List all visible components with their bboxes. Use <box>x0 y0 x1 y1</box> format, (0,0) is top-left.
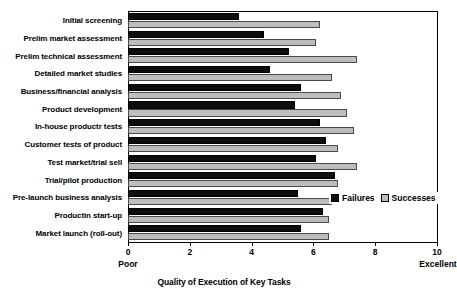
x-tick <box>252 243 253 246</box>
bar-group <box>128 207 437 225</box>
category-label: Prelim technical assessment <box>0 47 125 65</box>
bar-successes <box>128 92 341 99</box>
bar-successes <box>128 163 357 170</box>
x-tick-label: 0 <box>126 247 131 257</box>
bar-successes <box>128 56 357 63</box>
bar-successes <box>128 233 329 240</box>
x-tick <box>437 243 438 246</box>
category-label: In-house productr tests <box>0 118 125 136</box>
bar-group <box>128 136 437 154</box>
bar-successes <box>128 180 338 187</box>
x-tick <box>313 243 314 246</box>
bar-failures <box>128 101 295 108</box>
x-tick <box>375 243 376 246</box>
category-label: Trial/pilot production <box>0 171 125 189</box>
category-label: Market launch (roll-out) <box>0 224 125 242</box>
category-label: Customer tests of product <box>0 136 125 154</box>
x-tick <box>190 243 191 246</box>
bar-group <box>128 83 437 101</box>
bar-group <box>128 171 437 189</box>
x-tick-label: 6 <box>311 247 316 257</box>
legend-swatch-icon <box>331 194 339 202</box>
chart-legend: FailuresSuccesses <box>329 192 438 204</box>
bar-rows <box>128 12 437 242</box>
bar-failures <box>128 190 298 197</box>
bar-group <box>128 118 437 136</box>
bar-group <box>128 154 437 172</box>
legend-item-failures: Failures <box>331 193 375 203</box>
bar-successes <box>128 109 347 116</box>
bar-failures <box>128 119 320 126</box>
bar-group <box>128 65 437 83</box>
legend-swatch-icon <box>381 194 389 202</box>
bar-successes <box>128 216 329 223</box>
bar-successes <box>128 127 354 134</box>
category-label: Product development <box>0 100 125 118</box>
category-label: Pre-launch business analysis <box>0 189 125 207</box>
x-tick <box>128 243 129 246</box>
x-axis: 0246810 <box>128 243 438 273</box>
scale-anchor-high: Excellent <box>419 259 456 269</box>
bar-failures <box>128 66 270 73</box>
bar-failures <box>128 137 326 144</box>
bar-successes <box>128 198 332 205</box>
x-tick-label: 10 <box>432 247 441 257</box>
bar-successes <box>128 145 338 152</box>
x-axis-title: Quality of Execution of Key Tasks <box>0 277 448 287</box>
bar-failures <box>128 84 301 91</box>
legend-label: Successes <box>392 193 436 203</box>
category-label: Test market/trial sell <box>0 154 125 172</box>
x-tick-label: 8 <box>373 247 378 257</box>
bar-failures <box>128 208 323 215</box>
category-label: Business/financial analysis <box>0 83 125 101</box>
category-label: Prelim market assessment <box>0 30 125 48</box>
bar-failures <box>128 13 239 20</box>
category-axis-labels: Initial screeningPrelim market assessmen… <box>0 12 125 242</box>
bar-group <box>128 30 437 48</box>
scale-anchor-low: Poor <box>118 259 137 269</box>
category-label: Initial screening <box>0 12 125 30</box>
x-tick-label: 2 <box>187 247 192 257</box>
bar-group <box>128 100 437 118</box>
bar-failures <box>128 155 316 162</box>
legend-item-successes: Successes <box>381 193 436 203</box>
bar-successes <box>128 74 332 81</box>
bar-failures <box>128 48 289 55</box>
category-label: Detailed market studies <box>0 65 125 83</box>
x-tick-label: 4 <box>249 247 254 257</box>
legend-label: Failures <box>342 193 375 203</box>
bar-group <box>128 12 437 30</box>
bar-group <box>128 224 437 242</box>
bar-failures <box>128 172 335 179</box>
category-label: Productin start-up <box>0 207 125 225</box>
bar-failures <box>128 225 301 232</box>
bar-successes <box>128 21 320 28</box>
bar-successes <box>128 39 316 46</box>
bar-group <box>128 47 437 65</box>
bar-failures <box>128 31 264 38</box>
